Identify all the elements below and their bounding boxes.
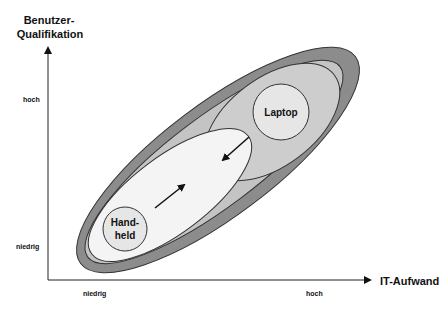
handheld-label-line1: Hand-	[111, 217, 139, 228]
y-axis-title-line1: Benutzer-	[24, 14, 75, 26]
laptop-label: Laptop	[264, 107, 297, 118]
y-tick-high: hoch	[23, 96, 40, 103]
y-tick-low: niedrig	[16, 243, 39, 251]
handheld-node: Hand- held	[103, 207, 147, 251]
ellipse-group	[47, 12, 389, 308]
x-tick-high: hoch	[306, 290, 323, 297]
x-tick-low: niedrig	[83, 290, 106, 298]
laptop-node: Laptop	[253, 84, 309, 140]
handheld-circle	[103, 207, 147, 251]
handheld-label-line2: held	[115, 230, 136, 241]
x-axis-title: IT-Aufwand	[380, 275, 439, 287]
diagram-canvas: Laptop Hand- held Benutzer- Qualifikatio…	[0, 0, 448, 312]
y-axis-title-line2: Qualifikation	[17, 28, 84, 40]
